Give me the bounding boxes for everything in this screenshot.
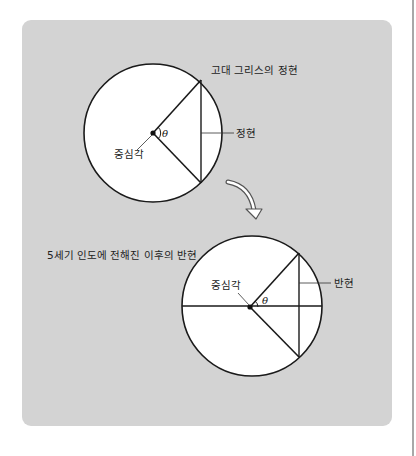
bottom-center-dot <box>247 304 252 309</box>
curved-down-arrow-icon <box>228 182 262 219</box>
top-circle-diagram: θ 중심각 정현 고대 그리스의 정현 <box>84 64 298 202</box>
top-chord-label: 정현 <box>236 127 256 139</box>
top-center-dot <box>150 130 155 135</box>
bottom-circle-diagram: θ 중심각 반현 5세기 인도에 전해진 이후의 반현 <box>47 236 354 376</box>
bottom-diagram-title: 5세기 인도에 전해진 이후의 반현 <box>47 249 197 261</box>
top-diagram-title: 고대 그리스의 정현 <box>211 64 298 76</box>
bottom-theta-symbol: θ <box>262 295 268 306</box>
chord-diagram: θ 중심각 정현 고대 그리스의 정현 θ 중심각 반현 5세기 인도에 전해진… <box>0 0 416 456</box>
top-theta-symbol: θ <box>162 128 168 139</box>
bottom-half-chord-label: 반현 <box>334 277 354 289</box>
top-central-angle-label: 중심각 <box>114 148 144 160</box>
bottom-central-angle-label: 중심각 <box>211 279 241 291</box>
